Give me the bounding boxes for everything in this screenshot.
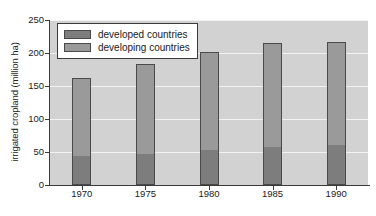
gridline [50,20,368,21]
y-axis-tick-label: 200 [28,48,44,58]
x-axis-tick-labels: 19701975198019851990 [50,188,368,204]
y-axis-tick-label: 250 [28,15,44,25]
bar-segment-developed-1975 [137,154,154,184]
y-axis-tick-mark [45,185,50,186]
y-axis-tick-label: 150 [28,81,44,91]
bar-1970 [72,78,91,185]
y-axis-tick-label: 0 [39,180,44,190]
y-axis-tick-label: 50 [33,147,44,157]
bar-1985 [263,43,282,185]
bar-segment-developed-1970 [73,156,90,184]
x-axis-tick-mark [209,186,210,190]
y-axis-tick-label: 100 [28,114,44,124]
x-axis-tick-mark [336,186,337,190]
legend-swatch-icon [64,43,91,52]
x-axis-line [45,185,370,186]
bar-segment-developed-1990 [328,145,345,184]
chart-container: irrigated cropland (million ha) 05010015… [0,0,376,216]
y-axis-tick-mark [45,119,50,120]
y-axis-tick-labels: 050100150200250 [18,14,44,186]
bar-segment-developed-1980 [201,150,218,184]
legend-item-label: developing countries [98,42,190,53]
legend: developed countriesdeveloping countries [57,23,198,59]
bar-1990 [327,42,346,185]
legend-item-label: developed countries [98,29,188,40]
y-axis-tick-mark [45,20,50,21]
y-axis-tick-mark [45,152,50,153]
y-axis-tick-mark [45,86,50,87]
y-axis-tick-mark [45,53,50,54]
x-axis-tick-mark [273,186,274,190]
legend-item[interactable]: developed countries [64,28,190,41]
legend-item[interactable]: developing countries [64,41,190,54]
y-axis-line [49,20,50,186]
x-axis-tick-mark [82,186,83,190]
x-axis-tick-mark [145,186,146,190]
bar-1975 [136,64,155,185]
bar-segment-developed-1985 [264,147,281,184]
bar-1980 [200,52,219,185]
legend-swatch-icon [64,30,91,39]
